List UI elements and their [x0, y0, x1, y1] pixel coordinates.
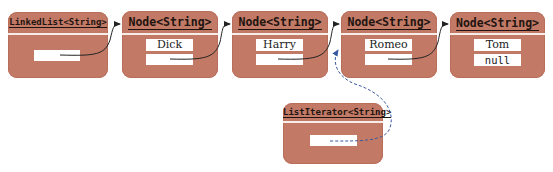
node-next-field-null: null	[474, 54, 521, 66]
header-divider	[122, 33, 218, 35]
node-header: Node<String>	[341, 15, 437, 29]
node-next-field	[256, 54, 303, 65]
iterator-position-field	[310, 135, 357, 146]
node-next-field	[146, 54, 193, 65]
linkedlist-box: LinkedList<String>	[8, 12, 108, 78]
header-divider	[341, 33, 437, 35]
node-data-field: Dick	[146, 39, 193, 51]
first-reference-field	[34, 50, 80, 61]
node-header: Node<String>	[232, 15, 328, 29]
node-data-field: Harry	[256, 39, 303, 51]
listiterator-box: ListIterator<String>	[283, 103, 383, 164]
node-tom: Node<String> Tom null	[450, 12, 545, 78]
node-header: Node<String>	[122, 15, 218, 29]
node-data-field: Romeo	[365, 39, 412, 51]
header-divider	[283, 121, 383, 123]
listiterator-header: ListIterator<String>	[283, 107, 383, 117]
node-data-field: Tom	[474, 39, 521, 51]
header-divider	[8, 33, 108, 35]
node-next-field	[365, 54, 412, 65]
linkedlist-header: LinkedList<String>	[8, 17, 108, 27]
node-romeo: Node<String> Romeo	[341, 11, 437, 78]
node-dick: Node<String> Dick	[122, 11, 218, 78]
node-harry: Node<String> Harry	[232, 11, 328, 78]
header-divider	[232, 33, 328, 35]
header-divider	[450, 33, 545, 35]
node-header: Node<String>	[450, 16, 545, 30]
